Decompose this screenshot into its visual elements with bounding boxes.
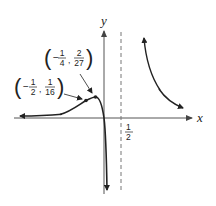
svg-text:16: 16 bbox=[45, 87, 55, 97]
svg-text:): ) bbox=[86, 45, 93, 70]
svg-text:2: 2 bbox=[31, 87, 36, 97]
svg-text:,: , bbox=[39, 84, 41, 94]
svg-text:(: ( bbox=[14, 74, 22, 99]
svg-text:,: , bbox=[68, 55, 70, 65]
left-tail-curve bbox=[20, 114, 62, 116]
y-axis-label: y bbox=[99, 13, 107, 28]
arrow-to-point-minus-half bbox=[64, 94, 82, 99]
svg-text:2: 2 bbox=[77, 48, 82, 58]
point-local-max bbox=[94, 95, 98, 99]
svg-text:1: 1 bbox=[31, 77, 36, 87]
function-graph: x y 1 2 ( − 1 4 , 2 27 ) ( − 1 2 , 1 bbox=[0, 0, 216, 206]
point-minus-half bbox=[84, 99, 88, 103]
x-axis-label: x bbox=[196, 110, 203, 125]
svg-text:1: 1 bbox=[60, 48, 65, 58]
right-branch-curve-up bbox=[144, 38, 160, 90]
svg-text:1: 1 bbox=[48, 77, 53, 87]
svg-text:−: − bbox=[23, 81, 29, 92]
label-point-minus-half: ( − 1 2 , 1 16 ) bbox=[14, 74, 64, 99]
svg-text:27: 27 bbox=[74, 58, 84, 68]
svg-text:4: 4 bbox=[60, 58, 65, 68]
label-local-max: ( − 1 4 , 2 27 ) bbox=[44, 45, 93, 70]
svg-text:−: − bbox=[53, 52, 59, 63]
svg-text:(: ( bbox=[44, 45, 52, 70]
svg-text:): ) bbox=[57, 74, 64, 99]
right-branch-curve-down bbox=[159, 89, 183, 108]
asymptote-label: 1 2 bbox=[125, 122, 133, 142]
svg-text:2: 2 bbox=[126, 132, 131, 142]
arrow-to-local-max bbox=[80, 74, 92, 93]
left-branch-curve bbox=[60, 97, 107, 190]
svg-text:1: 1 bbox=[126, 122, 131, 132]
